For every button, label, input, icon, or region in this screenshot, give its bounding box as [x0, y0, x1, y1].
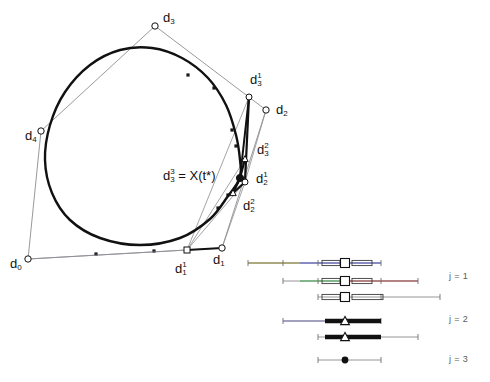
label-d4: d4: [25, 129, 37, 144]
knot-row-j3-a: [318, 357, 381, 364]
diagram-svg: [0, 0, 490, 382]
figure-canvas: d0 d4 d3 d13 d2 d23 d12 d22 d1 d11 d33 =…: [0, 0, 490, 382]
level-label-1: j = 1: [449, 271, 468, 281]
knot-interval-diagram: [248, 259, 440, 364]
level-label-2: j = 2: [449, 314, 468, 324]
knot-row-j1-a: [248, 259, 381, 268]
label-d3: d3: [163, 11, 175, 26]
label-d3-1: d13: [250, 72, 262, 87]
label-d1-1: d11: [175, 261, 187, 276]
label-d2-1: d12: [256, 171, 268, 186]
bspline-curve: [45, 47, 241, 245]
knot-row-j2-b: [318, 332, 418, 340]
knot-row-j1-c: [318, 293, 440, 302]
knot-row-j1-b: [283, 277, 418, 286]
label-d0: d0: [10, 257, 22, 272]
control-points: [25, 23, 269, 262]
helper-lines: [28, 97, 266, 259]
label-d1: d1: [213, 253, 225, 268]
label-d2: d2: [276, 103, 288, 118]
label-d2-2: d22: [243, 198, 255, 213]
label-x-of-t-star: d33 = X(t*): [163, 168, 216, 183]
level-label-3: j = 3: [449, 354, 468, 364]
knot-row-j2-a: [283, 316, 381, 324]
label-d3-2: d23: [257, 142, 269, 157]
